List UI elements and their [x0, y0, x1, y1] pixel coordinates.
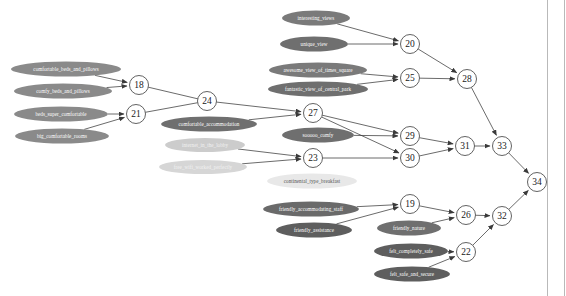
term-ellipse[interactable]: unique_view	[280, 37, 348, 52]
term-ellipse[interactable]: felt_completely_safe	[374, 244, 448, 259]
graph-node-23[interactable]: 23	[304, 149, 323, 168]
graph-node-label: 29	[405, 131, 415, 141]
graph-node-label: 23	[308, 153, 318, 163]
graph-node-25[interactable]: 25	[401, 69, 420, 88]
graph-edge	[249, 114, 301, 120]
term-ellipse[interactable]: comfy_beds_and_pillows	[14, 84, 112, 99]
graph-edge	[419, 149, 453, 156]
term-ellipse[interactable]: interesting_views	[282, 11, 350, 26]
graph-edge	[509, 153, 529, 174]
graph-edge	[107, 86, 127, 88]
term-label: internet_in_the_lobby	[182, 142, 228, 148]
graph-node-label: 26	[461, 210, 471, 220]
term-label: felt_safe_and_secure	[390, 271, 435, 277]
graph-node-20[interactable]: 20	[401, 35, 420, 54]
graph-edge	[418, 49, 457, 73]
graph-edge	[432, 218, 454, 223]
term-ellipse[interactable]: friendly_assistance	[276, 223, 352, 238]
graph-edge	[473, 225, 494, 246]
graph-edge	[429, 257, 455, 268]
term-ellipse[interactable]: beds_super_comfortable	[14, 107, 108, 122]
term-ellipse[interactable]: fantastic_view_of_central_park	[268, 82, 368, 97]
term-ellipse[interactable]: comfortable_beds_and_pillows	[11, 62, 121, 77]
term-ellipse[interactable]: internet_in_the_lobby	[165, 138, 245, 152]
term-label: fantastic_view_of_central_park	[285, 86, 351, 92]
term-ellipse[interactable]: free_wifi_worked_perfectly	[159, 160, 247, 174]
graph-node-label: 34	[532, 177, 542, 187]
graph-node-label: 20	[405, 39, 415, 49]
graph-node-32[interactable]: 32	[493, 207, 512, 226]
graph-edge	[419, 206, 454, 213]
graph-node-21[interactable]: 21	[127, 105, 146, 124]
graph-node-33[interactable]: 33	[493, 137, 512, 156]
graph-node-label: 28	[462, 74, 472, 84]
term-label: friendly_accommodating_staff	[279, 206, 343, 212]
graph-node-30[interactable]: 30	[401, 149, 420, 168]
graph-node-label: 32	[497, 211, 507, 221]
graph-edge	[361, 74, 398, 77]
graph-node-22[interactable]: 22	[457, 243, 476, 262]
graph-node-label: 33	[497, 141, 507, 151]
graph-node-label: 30	[405, 153, 415, 163]
term-label: beds_super_comfortable	[35, 111, 87, 117]
term-label: felt_completely_safe	[389, 248, 433, 254]
term-label: continental_type_breakfast	[284, 178, 341, 184]
graph-node-19[interactable]: 19	[401, 195, 420, 214]
term-label: interesting_views	[298, 15, 335, 21]
graph-node-29[interactable]: 29	[401, 127, 420, 146]
term-ellipse[interactable]: continental_type_breakfast	[267, 174, 357, 189]
graph-node-label: 19	[405, 199, 415, 209]
term-label: comfortable_beds_and_pillows	[33, 66, 98, 72]
term-label: sooooo_comfy	[303, 132, 334, 138]
graph-edge	[357, 79, 398, 84]
term-label: free_wifi_worked_perfectly	[174, 164, 233, 170]
graph-node-18[interactable]: 18	[130, 76, 149, 95]
term-ellipse[interactable]: sooooo_comfy	[282, 128, 354, 143]
graph-node-label: 31	[460, 141, 470, 151]
graph-edge	[419, 138, 453, 144]
term-label: big_comfortable_rooms	[37, 133, 87, 139]
term-label: friendly_assistance	[294, 227, 335, 233]
graph-node-label: 25	[405, 73, 415, 83]
graph-edge	[337, 24, 398, 41]
graph-edge	[238, 149, 301, 157]
graph-edge	[145, 103, 197, 113]
graph-edge	[242, 159, 301, 164]
graph-node-label: 21	[131, 109, 141, 119]
term-label: unique_view	[301, 41, 328, 47]
graph-canvas: comfortable_beds_and_pillowscomfy_beds_a…	[0, 0, 566, 296]
graph-node-label: 18	[134, 80, 144, 90]
term-label: awesome_view_of_times_square	[283, 67, 353, 73]
graph-node-24[interactable]: 24	[198, 92, 217, 111]
graph-node-28[interactable]: 28	[458, 70, 477, 89]
graph-edge	[148, 87, 198, 99]
term-label: comfortable_accommodation	[179, 121, 240, 127]
graph-node-27[interactable]: 27	[304, 104, 323, 123]
graph-edge	[420, 78, 455, 79]
term-ellipse[interactable]: friendly_accommodating_staff	[263, 202, 359, 217]
term-ellipse[interactable]: comfortable_accommodation	[161, 117, 257, 132]
term-ellipse[interactable]: friendly_nature	[377, 221, 441, 236]
term-ellipse[interactable]: awesome_view_of_times_square	[269, 63, 367, 78]
term-label: comfy_beds_and_pillows	[36, 88, 89, 94]
term-ellipse[interactable]: big_comfortable_rooms	[15, 129, 109, 144]
graph-node-label: 22	[461, 247, 471, 257]
graph-node-31[interactable]: 31	[456, 137, 475, 156]
term-label: friendly_nature	[393, 225, 426, 231]
graph-edge	[471, 87, 496, 135]
graph-node-label: 27	[308, 108, 318, 118]
term-ellipse[interactable]: felt_safe_and_secure	[374, 267, 450, 282]
graph-edge	[216, 102, 301, 112]
graph-node-label: 24	[202, 96, 212, 106]
graph-node-34[interactable]: 34	[528, 173, 547, 192]
graph-edge	[509, 190, 529, 209]
graph-edge	[95, 75, 127, 82]
graph-edge	[357, 205, 398, 207]
graph-node-26[interactable]: 26	[457, 206, 476, 225]
